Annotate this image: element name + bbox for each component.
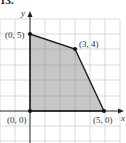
x-axis-label: x [120, 113, 125, 123]
vertex-0-5 [28, 32, 32, 36]
y-axis-arrow-icon [28, 11, 33, 17]
vertex-5-0 [102, 109, 106, 113]
vertex-0-0 [28, 109, 32, 113]
vertex-3-4 [73, 47, 77, 51]
vertex-label-0-0: (0, 0) [7, 115, 27, 125]
vertex-label-0-5: (0, 5) [5, 30, 25, 40]
y-axis-label: y [20, 8, 25, 18]
vertex-label-5-0: (5, 0) [93, 115, 113, 125]
feasible-region-graph: y x (0, 5) (3, 4) (0, 0) (5, 0) [0, 0, 126, 143]
vertex-label-3-4: (3, 4) [79, 39, 99, 49]
